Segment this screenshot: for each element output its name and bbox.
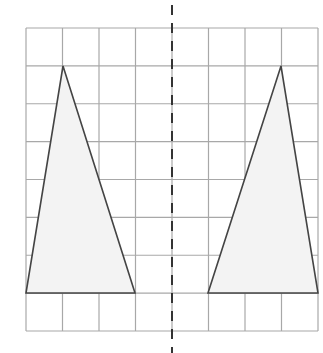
symmetry-diagram	[0, 0, 323, 353]
